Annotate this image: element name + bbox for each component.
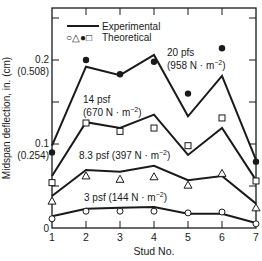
- series-label: 14 psf: [83, 94, 110, 105]
- y-tick-label-cm: (0.254): [17, 150, 49, 161]
- deflection-chart: 123456700.1(0.254)0.2(0.508) 20 pfs(958 …: [0, 0, 262, 261]
- filled-circle-marker: [117, 71, 123, 77]
- open-circle-marker: [117, 208, 123, 214]
- open-triangle-marker: [252, 204, 260, 211]
- open-circle-marker: [185, 210, 191, 216]
- open-square-marker: [151, 125, 157, 131]
- open-square-marker: [83, 120, 89, 126]
- open-circle-marker: [83, 208, 89, 214]
- series-label: 8.3 psf (397 N · m−2): [79, 149, 170, 161]
- y-tick-label: 0: [43, 223, 49, 234]
- x-tick-label: 1: [49, 231, 55, 243]
- legend-experimental-label: Experimental: [102, 21, 160, 32]
- legend: Experimental ○△●□ Theoretical: [66, 21, 160, 43]
- open-square-marker: [219, 115, 225, 121]
- open-circle-marker: [49, 216, 55, 222]
- open-square-marker: [117, 128, 123, 134]
- series-label: 3 psf (144 N · m−2): [84, 191, 167, 203]
- filled-circle-marker: [83, 57, 89, 63]
- open-triangle-marker: [218, 169, 226, 176]
- legend-theoretical-label: Theoretical: [102, 32, 151, 43]
- open-triangle-marker: [48, 197, 56, 204]
- series-label-si: (670 N · m−2): [83, 106, 142, 118]
- filled-circle-marker: [219, 45, 225, 51]
- x-tick-label: 5: [185, 231, 191, 243]
- y-tick-label: 0.2: [35, 54, 49, 65]
- filled-circle-marker: [185, 90, 191, 96]
- open-circle-marker: [151, 208, 157, 214]
- open-square-marker: [185, 143, 191, 149]
- filled-circle-marker: [49, 149, 55, 155]
- filled-circle-marker: [253, 158, 259, 164]
- x-axis-label: Stud No.: [134, 245, 175, 257]
- x-tick-label: 4: [151, 231, 157, 243]
- x-tick-label: 6: [219, 231, 225, 243]
- filled-circle-marker: [151, 58, 157, 64]
- y-tick-label: 0.1: [35, 138, 49, 149]
- series-label-si: (958 N · m−2): [167, 59, 226, 71]
- open-triangle-marker: [116, 175, 124, 182]
- legend-markers-icon: ○△●□: [66, 32, 92, 43]
- x-tick-label: 3: [117, 231, 123, 243]
- x-tick-label: 7: [253, 231, 259, 243]
- open-circle-marker: [253, 221, 259, 227]
- open-square-marker: [253, 178, 259, 184]
- open-circle-marker: [219, 209, 225, 215]
- open-square-marker: [49, 180, 55, 186]
- open-triangle-marker: [150, 173, 158, 180]
- y-axis-label: Midspan deflection, in. (cm): [1, 57, 12, 179]
- series-label: 20 pfs: [167, 47, 194, 58]
- open-triangle-marker: [184, 181, 192, 188]
- y-tick-label-cm: (0.508): [17, 66, 49, 77]
- x-tick-label: 2: [83, 231, 89, 243]
